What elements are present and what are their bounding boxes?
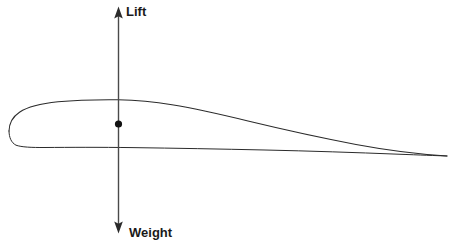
diagram-background — [0, 0, 458, 250]
airfoil-diagram-canvas: Lift Weight — [0, 0, 458, 250]
airfoil-force-diagram: Lift Weight — [0, 0, 458, 250]
center-of-gravity-dot-icon — [115, 120, 122, 127]
weight-label: Weight — [129, 225, 173, 240]
lift-label: Lift — [126, 4, 147, 19]
